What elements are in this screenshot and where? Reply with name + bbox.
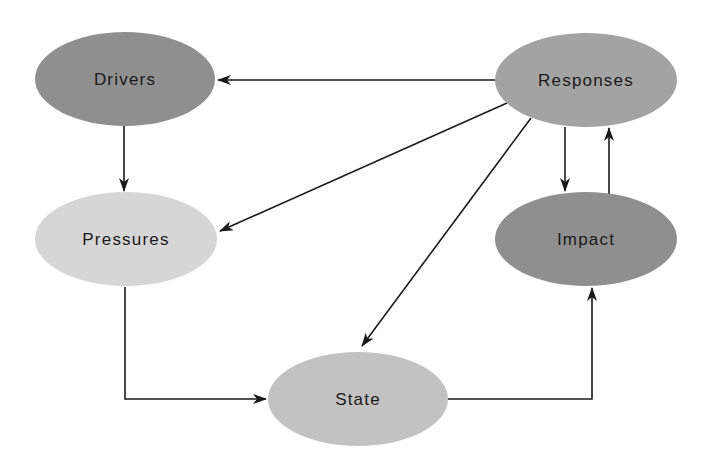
dpsir-diagram: Drivers Responses Pressures Impact State bbox=[0, 0, 711, 457]
node-label: Impact bbox=[557, 230, 615, 249]
node-drivers[interactable]: Drivers bbox=[35, 32, 215, 126]
node-label: State bbox=[335, 390, 381, 409]
edge-state-to-impact bbox=[448, 288, 592, 399]
node-label: Pressures bbox=[82, 230, 169, 249]
node-pressures[interactable]: Pressures bbox=[35, 192, 217, 286]
edge-responses-to-pressures bbox=[220, 103, 507, 231]
node-label: Drivers bbox=[94, 70, 156, 89]
node-label: Responses bbox=[538, 71, 634, 90]
edge-pressures-to-state bbox=[125, 287, 266, 399]
node-state[interactable]: State bbox=[268, 352, 448, 446]
node-impact[interactable]: Impact bbox=[495, 192, 677, 286]
node-responses[interactable]: Responses bbox=[495, 33, 677, 127]
